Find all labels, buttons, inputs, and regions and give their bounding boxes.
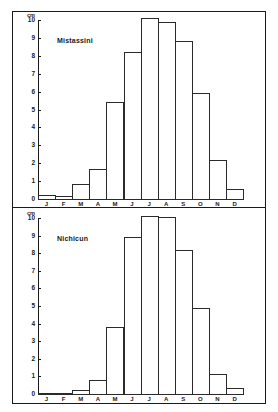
y-tick [39,218,41,219]
bar-j-6 [141,216,159,395]
y-tick [39,56,41,57]
y-tick [39,376,41,377]
x-tick-label: J [141,396,158,402]
bar-a-3 [89,380,107,395]
y-tick-label: 5 [25,106,35,113]
y-tick-label: 7 [25,267,35,274]
y-tick-label: 1 [25,372,35,379]
x-tick-label: D [226,396,243,402]
y-tick-label: 4 [25,123,35,130]
y-tick [39,359,41,360]
bar-j-0 [38,393,56,396]
bar-o-9 [192,308,210,395]
bar-s-8 [175,41,193,200]
y-tick-label: 9 [25,232,35,239]
x-tick-label: A [89,396,106,402]
y-tick-label: 4 [25,320,35,327]
bar-j-6 [141,18,159,200]
y-tick-label: 3 [25,141,35,148]
bar-f-1 [55,393,73,396]
bar-m-4 [106,327,124,395]
bar-n-10 [209,374,227,395]
y-tick-label: 3 [25,337,35,344]
y-tick-label: 7 [25,70,35,77]
x-tick-label: N [209,396,226,402]
y-tick [39,324,41,325]
y-tick [39,74,41,75]
chart-panel-nichicun: cmNichicun012345678910JFMAMJJASOND [12,207,266,404]
y-tick [39,38,41,39]
bar-m-2 [72,184,90,200]
bar-j-5 [124,237,142,395]
bar-n-10 [209,160,227,200]
bar-j-0 [38,195,56,200]
bar-o-9 [192,93,210,200]
y-tick-label: 10 [25,214,35,221]
y-tick-label: 5 [25,302,35,309]
y-tick [39,110,41,111]
x-tick-label: M [72,396,89,402]
y-tick [39,145,41,146]
x-tick-label: J [124,396,141,402]
y-tick-label: 9 [25,34,35,41]
y-tick-label: 0 [25,390,35,397]
x-tick-label: J [38,396,55,402]
y-tick-label: 8 [25,249,35,256]
bar-d-11 [226,189,244,200]
y-tick-label: 1 [25,177,35,184]
y-tick-label: 2 [25,355,35,362]
bar-a-7 [158,217,176,395]
chart-panel-mistassini: cmMistassini012345678910JFMAMJJASOND [12,11,266,207]
station-name: Nichicun [57,235,88,242]
x-tick-label: F [55,396,72,402]
y-tick-label: 6 [25,284,35,291]
bar-a-7 [158,22,176,200]
y-tick [39,127,41,128]
y-tick [39,236,41,237]
y-tick-label: 6 [25,88,35,95]
x-tick-label: M [106,396,123,402]
y-tick [39,163,41,164]
x-tick-label: O [192,396,209,402]
bar-j-5 [124,52,142,200]
y-tick-label: 2 [25,159,35,166]
y-tick [39,271,41,272]
y-tick [39,20,41,21]
y-tick [39,253,41,254]
y-tick [39,288,41,289]
bar-m-2 [72,390,90,395]
bar-m-4 [106,102,124,200]
y-tick-label: 0 [25,195,35,202]
y-tick [39,341,41,342]
station-name: Mistassini [57,37,93,44]
y-tick-label: 8 [25,52,35,59]
y-tick [39,306,41,307]
x-tick-label: S [175,396,192,402]
y-tick-label: 10 [25,16,35,23]
y-tick [39,92,41,93]
bar-f-1 [55,196,73,200]
y-tick [39,181,41,182]
bar-d-11 [226,388,244,395]
x-tick-label: A [158,396,175,402]
bar-s-8 [175,250,193,395]
bar-a-3 [89,169,107,200]
